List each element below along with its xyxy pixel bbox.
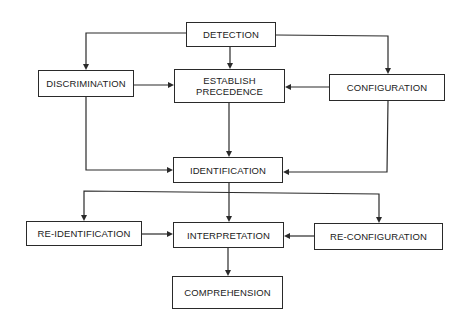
edge-identification-branches [84, 191, 379, 219]
node-detection: DETECTION [186, 22, 276, 47]
arrowhead-icon [285, 84, 291, 90]
node-interpretation: INTERPRETATION [173, 222, 284, 248]
arrowhead-icon [284, 233, 290, 239]
node-label: RE-CONFIGURATION [330, 231, 427, 242]
node-comprehension: COMPREHENSION [172, 276, 283, 309]
edge-configuration-identification [287, 101, 388, 172]
node-re-configuration: RE-CONFIGURATION [314, 223, 443, 250]
node-re-identification: RE-IDENTIFICATION [26, 221, 142, 246]
edge-discrimination-identification [86, 97, 169, 170]
node-label-line2: PRECEDENCE [196, 86, 263, 97]
node-label: CONFIGURATION [347, 82, 427, 93]
node-label: DISCRIMINATION [46, 78, 125, 89]
node-label: IDENTIFICATION [190, 165, 266, 176]
flowchart-canvas: DETECTION DISCRIMINATION ESTABLISH PRECE… [0, 0, 468, 332]
node-discrimination: DISCRIMINATION [38, 70, 134, 97]
edge-detection-configuration [276, 35, 388, 70]
node-label: DETECTION [203, 29, 259, 40]
node-configuration: CONFIGURATION [329, 74, 445, 101]
node-label: RE-IDENTIFICATION [38, 228, 131, 239]
node-establish-precedence: ESTABLISH PRECEDENCE [174, 69, 285, 103]
node-identification: IDENTIFICATION [173, 157, 283, 183]
node-label: INTERPRETATION [187, 230, 270, 241]
edge-detection-discrimination [86, 33, 186, 66]
arrowhead-icon [283, 169, 289, 175]
node-label-line1: ESTABLISH [203, 75, 255, 86]
node-label: COMPREHENSION [184, 287, 270, 298]
